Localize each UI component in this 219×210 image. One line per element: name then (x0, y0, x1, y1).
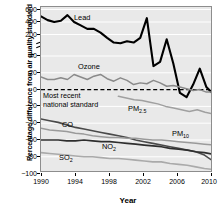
y-tick-label: 40 (29, 52, 37, 59)
series-label-pm10-sub: 10 (183, 133, 189, 139)
x-tick-mark (143, 173, 144, 176)
standard-note-line2: national standard (43, 101, 98, 110)
series-label-pm25-base: PM (128, 104, 139, 113)
y-tick-label: 20 (29, 68, 37, 75)
x-tick-mark (211, 173, 212, 176)
series-label-pm10-base: PM (172, 129, 183, 138)
series-label-co: CO (62, 120, 73, 129)
series-label-so2-sub: 2 (70, 157, 73, 163)
series-label-pm10: PM10 (172, 129, 189, 139)
x-tick-mark (41, 173, 42, 176)
x-tick-label: 2006 (169, 178, 185, 185)
y-tick-label: 200 (25, 30, 37, 37)
y-tick-label: −20 (25, 102, 37, 109)
x-tick-mark (177, 173, 178, 176)
series-label-no2-base: NO (102, 142, 113, 151)
plot-area: Lead Ozone PM2.5 CO PM10 NO2 SO2 Most re… (40, 6, 212, 172)
x-axis-ticks: 1990 1994 1998 2002 2006 2010 (0, 173, 219, 193)
x-tick-label: 1994 (67, 178, 83, 185)
series-label-so2: SO2 (59, 153, 73, 163)
data-series-layer (41, 7, 212, 172)
series-label-no2-sub: 2 (113, 146, 116, 152)
y-tick-label: −80 (25, 152, 37, 159)
chart-figure: Percentage difference from air quality s… (0, 0, 219, 210)
y-tick-label: −60 (25, 136, 37, 143)
series-label-ozone: Ozone (78, 62, 100, 71)
series-label-pm25-sub: 2.5 (139, 108, 146, 114)
x-tick-mark (75, 173, 76, 176)
y-tick-label: 600 (25, 5, 37, 12)
x-tick-label: 2010 (201, 178, 217, 185)
y-tick-label: 400 (25, 18, 37, 25)
x-tick-label: 2002 (135, 178, 151, 185)
x-axis-title: Year (38, 196, 218, 205)
series-label-lead: Lead (74, 13, 90, 22)
x-tick-mark (109, 173, 110, 176)
series-label-pm25: PM2.5 (128, 104, 146, 114)
series-label-no2: NO2 (102, 142, 116, 152)
y-tick-label: −40 (25, 119, 37, 126)
series-line-lead (41, 15, 212, 97)
series-line-ozone (41, 74, 212, 92)
standard-note: Most recent national standard (43, 92, 98, 109)
x-tick-label: 1998 (101, 178, 117, 185)
series-label-so2-base: SO (59, 153, 70, 162)
x-tick-label: 1990 (33, 178, 49, 185)
